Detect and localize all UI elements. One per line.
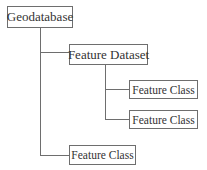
connector-root-trunk	[40, 27, 41, 156]
connector-dataset-trunk	[105, 64, 106, 120]
node-feature-class-3: Feature Class	[69, 145, 136, 165]
node-label: Feature Dataset	[68, 47, 149, 63]
node-label: Geodatabase	[7, 9, 73, 25]
node-label: Feature Class	[132, 84, 194, 96]
node-label: Feature Class	[132, 114, 194, 126]
node-feature-class-2: Feature Class	[129, 110, 198, 129]
node-feature-class-1: Feature Class	[129, 80, 198, 99]
node-geodatabase: Geodatabase	[7, 6, 73, 28]
connector-dataset-to-class-1	[105, 89, 129, 90]
node-feature-dataset: Feature Dataset	[69, 44, 148, 65]
connector-dataset-to-class-2	[105, 119, 129, 120]
connector-root-to-feature-class	[40, 155, 69, 156]
connector-root-to-dataset	[40, 52, 69, 53]
node-label: Feature Class	[71, 149, 133, 161]
